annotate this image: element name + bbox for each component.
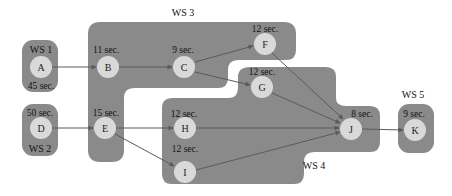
node-D[interactable]: D [30,117,52,139]
node-C[interactable]: C [173,56,195,78]
node-K[interactable]: K [404,119,426,141]
time-label-E: 15 sec. [93,108,119,118]
node-A-label: A [37,62,45,73]
node-G[interactable]: G [251,76,273,98]
node-B-label: B [105,62,112,73]
time-label-B: 11 sec. [93,45,119,55]
ws3-label: WS 3 [172,7,195,18]
time-label-I: 12 sec. [172,144,198,154]
ws2-label: WS 2 [29,143,52,154]
node-E[interactable]: E [94,117,116,139]
node-H-label: H [181,123,188,134]
time-label-D: 50 sec. [27,108,53,118]
workstation-regions [22,22,434,184]
node-F[interactable]: F [254,33,276,55]
time-label-G: 12 sec. [249,67,275,77]
node-I-label: I [183,167,186,178]
node-G-label: G [258,82,265,93]
precedence-diagram: A B C D E F G H [0,0,452,196]
node-J-label: J [349,124,353,135]
node-K-label: K [411,125,419,136]
time-label-F: 12 sec. [252,24,278,34]
time-label-K: 9 sec. [403,109,425,119]
node-D-label: D [37,123,44,134]
ws5-label: WS 5 [402,89,425,100]
time-label-J: 8 sec. [351,109,373,119]
node-F-label: F [262,39,268,50]
ws1-label: WS 1 [30,44,53,55]
node-H[interactable]: H [174,117,196,139]
time-label-C: 9 sec. [172,45,194,55]
time-label-H: 12 sec. [171,109,197,119]
time-label-A: 45 sec. [28,81,54,91]
node-J[interactable]: J [340,118,362,140]
ws4-label: WS 4 [303,160,326,171]
node-B[interactable]: B [97,56,119,78]
node-I[interactable]: I [174,161,196,183]
node-C-label: C [181,62,188,73]
node-E-label: E [102,123,108,134]
node-A[interactable]: A [30,56,52,78]
